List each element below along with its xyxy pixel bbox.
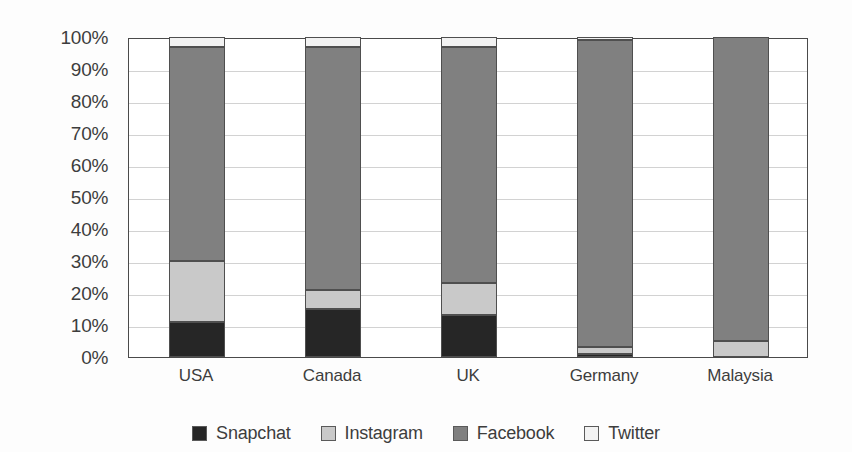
y-tick-label: 20% — [71, 283, 108, 305]
bar-segment-snapchat[interactable] — [305, 309, 361, 357]
bar-segment-twitter[interactable] — [169, 37, 225, 47]
bar-segment-instagram[interactable] — [169, 261, 225, 322]
y-tick-label: 90% — [71, 59, 108, 81]
y-axis: 0%10%20%30%40%50%60%70%80%90%100% — [0, 38, 118, 358]
x-tick-label: Germany — [570, 366, 639, 386]
bar-segment-instagram[interactable] — [577, 347, 633, 353]
bar-segment-snapchat[interactable] — [441, 315, 497, 357]
x-axis: USACanadaUKGermanyMalaysia — [128, 366, 808, 396]
bar-segment-instagram[interactable] — [713, 341, 769, 357]
bar-segment-instagram[interactable] — [305, 290, 361, 309]
bar-segment-facebook[interactable] — [713, 37, 769, 341]
bar-stack[interactable] — [441, 37, 497, 357]
bar-stack[interactable] — [577, 37, 633, 357]
chart-figure: 0%10%20%30%40%50%60%70%80%90%100% USACan… — [0, 0, 852, 452]
bar-segment-twitter[interactable] — [577, 37, 633, 40]
y-tick-label: 70% — [71, 123, 108, 145]
bar-stack[interactable] — [713, 37, 769, 357]
legend-label: Facebook — [477, 423, 554, 444]
y-tick-label: 40% — [71, 219, 108, 241]
y-tick-label: 100% — [61, 27, 108, 49]
x-tick-label: USA — [179, 366, 213, 386]
legend-swatch-icon — [584, 426, 599, 441]
y-tick-label: 60% — [71, 155, 108, 177]
legend-item-twitter[interactable]: Twitter — [584, 423, 660, 444]
bar-segment-facebook[interactable] — [169, 47, 225, 261]
x-tick-label: Malaysia — [707, 366, 772, 386]
bar-segment-facebook[interactable] — [441, 47, 497, 284]
legend-label: Instagram — [345, 423, 423, 444]
plot-area — [128, 38, 808, 358]
bar-segment-facebook[interactable] — [577, 40, 633, 347]
legend-swatch-icon — [192, 426, 207, 441]
legend-swatch-icon — [321, 426, 336, 441]
bar-stack[interactable] — [305, 37, 361, 357]
bar-segment-facebook[interactable] — [305, 47, 361, 290]
bar-segment-snapchat[interactable] — [169, 322, 225, 357]
bar-segment-twitter[interactable] — [305, 37, 361, 47]
chart-legend: SnapchatInstagramFacebookTwitter — [0, 418, 852, 448]
bar-segment-snapchat[interactable] — [577, 354, 633, 357]
bar-segment-twitter[interactable] — [441, 37, 497, 47]
y-tick-label: 30% — [71, 251, 108, 273]
legend-item-instagram[interactable]: Instagram — [321, 423, 423, 444]
legend-label: Twitter — [608, 423, 660, 444]
legend-item-facebook[interactable]: Facebook — [453, 423, 554, 444]
legend-swatch-icon — [453, 426, 468, 441]
y-tick-label: 50% — [71, 187, 108, 209]
bar-stack[interactable] — [169, 37, 225, 357]
y-tick-label: 80% — [71, 91, 108, 113]
y-tick-label: 10% — [71, 315, 108, 337]
y-tick-label: 0% — [81, 347, 108, 369]
bar-segment-instagram[interactable] — [441, 283, 497, 315]
x-tick-label: Canada — [303, 366, 361, 386]
x-tick-label: UK — [456, 366, 479, 386]
legend-label: Snapchat — [216, 423, 290, 444]
legend-item-snapchat[interactable]: Snapchat — [192, 423, 290, 444]
